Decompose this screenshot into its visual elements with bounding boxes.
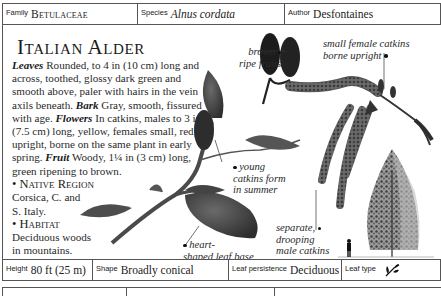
bullet-dot [318,227,322,231]
leaf-persistence-label: Leaf persistence [232,264,287,273]
habitat-heading: • Habitat [12,218,212,232]
next-entry-cell [3,288,127,296]
next-entry-cell [127,288,275,296]
annotation-male-catkins: separate, drooping male catkins [276,222,329,257]
page-title: Italian Alder [17,35,145,60]
shape-label: Shape [96,264,118,273]
height-label: Height [6,264,28,273]
habitat-line1: Deciduous woods [12,231,212,244]
shape-value: Broadly conical [121,264,194,276]
bullet-dot [183,244,187,248]
fruit-label: Fruit [45,151,69,163]
flowers-label: Flowers [55,112,92,124]
leaf-persistence-field: Leaf persistence Deciduous [229,260,342,280]
height-value: 80 ft (25 m) [31,264,86,276]
bullet-dot [278,51,282,55]
leaf-type-label: Leaf type [345,264,376,273]
annotation-female-catkins: small female catkins borne upright [323,38,410,61]
next-entry-cell [275,288,441,296]
simple-leaf-icon [384,263,400,277]
footer-fields: Height 80 ft (25 m) Shape Broadly conica… [2,259,441,281]
leaves-label: Leaves [12,59,43,71]
bullet-dot [384,54,388,58]
next-entry-row [2,287,441,296]
species-description: Leaves Rounded, to 4 in (10 cm) long and… [12,59,212,258]
habitat-line2: in mountains. [12,244,212,257]
native-region-line1: Corsica, C. and [12,191,212,204]
bark-label: Bark [76,99,99,111]
annotation-ripe-fruits: brown ripe fruits [239,46,281,69]
native-region-heading: • Native Region [12,178,212,192]
human-scale-icon [347,239,351,257]
bullet-dot [233,166,237,170]
height-field: Height 80 ft (25 m) [3,260,93,280]
leaf-type-field: Leaf type [342,260,440,280]
leaf-persistence-value: Deciduous [290,264,339,276]
annotation-young-catkins: young catkins form in summer [233,161,286,196]
native-region-line2: S. Italy. [12,205,212,218]
shape-field: Shape Broadly conical [93,260,229,280]
